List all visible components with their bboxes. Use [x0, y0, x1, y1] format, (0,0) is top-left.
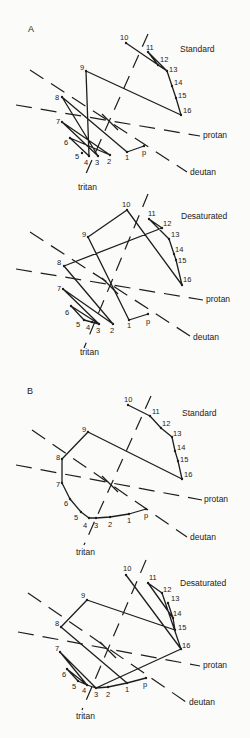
panel-title: Desaturated: [181, 211, 228, 221]
cap-label: 8: [56, 453, 60, 462]
cap-point: [174, 450, 176, 452]
cap-label: 16: [184, 470, 192, 479]
cap-point: [85, 70, 87, 72]
cap-label: 5: [74, 513, 78, 522]
panel-A-standard: AStandardprotandeutantritanp123456789101…: [16, 24, 227, 192]
cap-point: [171, 85, 173, 87]
cap-point: [167, 602, 169, 604]
deutan-label: deutan: [190, 167, 216, 177]
cap-point: [166, 70, 168, 72]
cap-label: 12: [160, 55, 168, 64]
cap-label: 4: [83, 521, 87, 530]
cap-point: [62, 288, 64, 290]
cap-label: 2: [106, 690, 110, 699]
cap-point: [175, 97, 177, 99]
cap-point: [175, 259, 177, 261]
cap-label: 3: [94, 521, 98, 530]
cap-point: [168, 238, 170, 240]
cap-label: 11: [152, 407, 160, 416]
cap-point: [107, 686, 109, 688]
cap-point: [125, 42, 127, 44]
cap-label: 4: [84, 158, 88, 167]
cap-label: 16: [183, 275, 191, 284]
cap-point: [125, 574, 127, 576]
cap-point: [70, 305, 72, 307]
cap-point: [143, 145, 145, 147]
cap-point: [88, 517, 90, 519]
cap-point: [112, 323, 114, 325]
protan-label: protan: [206, 294, 230, 304]
cap-point: [157, 64, 159, 66]
cap-label: 12: [163, 585, 171, 594]
cap-label: 9: [80, 63, 84, 72]
cap-point: [181, 478, 183, 480]
cap-label: 15: [178, 91, 186, 100]
cap-label: 10: [124, 395, 132, 404]
cap-label: 6: [62, 670, 66, 679]
tritan-axis: tritan: [78, 34, 148, 192]
cap-label: 14: [177, 443, 185, 452]
cap-point: [126, 209, 128, 211]
cap-point: [149, 415, 151, 417]
cap-label: 10: [120, 33, 128, 42]
cap-label: 15: [178, 623, 186, 632]
cap-label: 5: [72, 682, 76, 691]
cap-label: 15: [180, 455, 188, 464]
protan-label: protan: [204, 494, 228, 504]
deutan-label: deutan: [193, 332, 219, 342]
cap-label: 7: [56, 480, 60, 489]
cap-label: 3: [95, 158, 99, 167]
cap-point: [180, 114, 182, 116]
cap-point: [97, 155, 99, 157]
cap-label: 5: [75, 152, 79, 161]
tritan-label: tritan: [76, 711, 95, 721]
cap-label: 14: [174, 78, 182, 87]
cap-label: 6: [65, 308, 69, 317]
cap-point: [91, 321, 93, 323]
protan-label: protan: [203, 660, 227, 670]
cap-label: 9: [81, 591, 85, 600]
panel-B-standard: BStandardprotandeutantritanp123456789101…: [16, 386, 228, 557]
tritan-label: tritan: [78, 182, 97, 192]
cap-label: 7: [57, 284, 61, 293]
tritan-label: tritan: [80, 347, 99, 357]
cap-point: [61, 121, 63, 123]
cap-point: [61, 458, 63, 460]
cap-label: p: [144, 511, 148, 520]
cap-label: 1: [125, 685, 129, 694]
tritan-label: tritan: [76, 547, 95, 557]
color-vision-diagram: AStandardprotandeutantritanp123456789101…: [0, 0, 250, 738]
cap-label: 9: [82, 425, 86, 434]
cap-label: 13: [173, 429, 181, 438]
cap-label: 7: [55, 644, 59, 653]
protan-axis: protan: [16, 269, 230, 304]
cap-label: 7: [56, 117, 60, 126]
cap-point: [86, 599, 88, 601]
cap-point: [145, 508, 147, 510]
cap-point: [83, 319, 85, 321]
cap-point: [60, 626, 62, 628]
cap-label: 5: [76, 320, 80, 329]
cap-label: 1: [127, 321, 131, 330]
cap-label: 3: [94, 690, 98, 699]
cap-point: [109, 516, 111, 518]
cap-point: [147, 313, 149, 315]
cap-point: [95, 687, 97, 689]
cap-label: 13: [171, 230, 179, 239]
cap-label: 2: [107, 157, 111, 166]
cap-label: 1: [125, 153, 129, 162]
cap-label: 11: [149, 573, 157, 582]
protan-label: protan: [203, 130, 227, 140]
cap-label: 1: [127, 516, 131, 525]
protan-axis: protan: [16, 105, 227, 140]
cap-label: 6: [64, 499, 68, 508]
cap-point: [69, 137, 71, 139]
cap-label: 4: [82, 686, 86, 695]
cap-point: [126, 682, 128, 684]
cap-label: 16: [182, 641, 190, 650]
cap-label: 13: [169, 65, 177, 74]
cap-point: [63, 265, 65, 267]
panel-title: Standard: [182, 408, 217, 418]
cap-point: [77, 680, 79, 682]
cap-point: [95, 517, 97, 519]
